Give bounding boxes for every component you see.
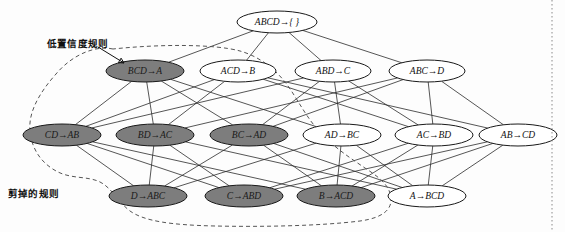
rule-node[interactable]: CD→AB [23,124,101,146]
rule-node-label: AC→BD [416,130,451,140]
rule-node-label: A→BCD [409,191,444,201]
lattice-edge [268,78,488,128]
rule-node[interactable]: A→BCD [388,185,466,207]
lattice-edge [171,79,317,126]
rule-node-label: ABD→C [315,66,351,76]
rule-node[interactable]: BC→AD [210,124,288,146]
rule-node[interactable]: AD→BC [303,124,381,146]
rule-lattice-graph: ABCD→{ }BCD→AACD→BABD→CABC→DCD→ABBD→ACBC… [0,0,565,232]
lattice-edge [186,142,397,189]
rule-node[interactable]: D→ABC [109,185,187,207]
rule-node-label: B→ACD [319,191,353,201]
rule-node-label: AB→CD [500,130,535,140]
lattice-edge [428,82,433,124]
rule-node[interactable]: C→ABD [205,185,283,207]
rule-node[interactable]: B→ACD [297,185,375,207]
rule-node[interactable]: ACD→B [200,60,276,82]
rule-node[interactable]: ABCD→{ } [237,11,317,33]
lattice-edge [75,81,131,124]
rule-node-label: D→ABC [130,191,166,201]
figure-canvas: ABCD→{ }BCD→AACD→BABD→CABC→DCD→ABBD→ACBC… [0,0,565,232]
lattice-edge [264,145,322,186]
lattice-edge [86,80,214,127]
lattice-edge [442,145,503,186]
rule-node-label: C→ABD [227,191,261,201]
lattice-edge [441,81,503,125]
rule-node-label: BC→AD [232,130,266,140]
lattice-edge [76,145,133,186]
rule-node[interactable]: ABD→C [295,60,371,82]
lattice-edge [289,32,321,60]
lattice-edge [185,78,398,128]
rule-node-label: CD→AB [45,130,80,140]
rule-node-label: ABC→D [409,66,444,76]
rule-node[interactable]: AC→BD [395,124,473,146]
rule-node-label: BCD→A [128,66,163,76]
lattice-edge [428,146,432,185]
lattice-edge [263,79,408,126]
rule-node[interactable]: BD→AC [116,124,194,146]
rule-node-label: BD→AC [138,130,173,140]
rule-node-label: ACD→B [220,66,256,76]
lattice-edge [275,142,488,189]
edge-layer [75,30,503,189]
lattice-edge [247,33,269,61]
rule-node[interactable]: BCD→A [106,60,184,82]
lattice-edge [174,143,316,188]
annotation-low-confidence-rules: 低置信度规则 [47,36,108,50]
rule-node-label: AD→BC [324,130,360,140]
annotation-pruned-rules: 剪掉的规则 [8,186,59,200]
rule-node[interactable]: AB→CD [479,124,557,146]
rule-node-label: ABCD→{ } [254,17,299,27]
rule-node[interactable]: ABC→D [389,60,465,82]
